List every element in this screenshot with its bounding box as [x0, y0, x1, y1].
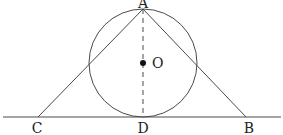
segment-ac — [38, 9, 143, 117]
label-c: C — [32, 120, 43, 135]
geometry-diagram: A O C D B — [0, 0, 283, 135]
label-a: A — [137, 0, 149, 11]
center-point-o — [140, 60, 146, 66]
label-o: O — [152, 55, 163, 71]
label-d: D — [137, 120, 148, 135]
label-b: B — [244, 120, 254, 135]
